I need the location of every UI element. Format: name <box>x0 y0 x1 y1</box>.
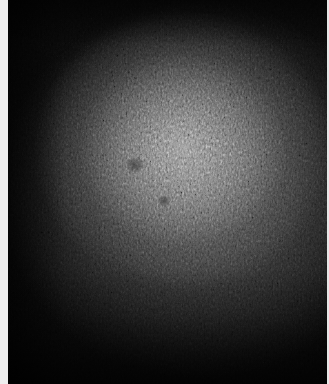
left-border-strip <box>0 0 8 384</box>
grainy-photo <box>8 0 327 384</box>
image-frame <box>0 0 329 384</box>
edge-vignette <box>8 0 327 384</box>
